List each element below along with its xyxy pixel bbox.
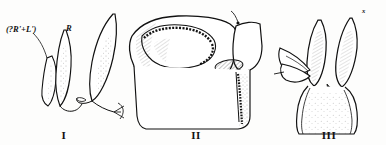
figure-2: x II [126, 0, 266, 145]
figure-3-drawing [272, 0, 386, 145]
root-node-left [77, 98, 86, 102]
figure-2-numeral: II [126, 129, 266, 141]
label-r: R [66, 24, 72, 33]
figure-3: LI LD x III [272, 0, 386, 145]
base-shelf-left [60, 104, 82, 111]
label-rl: (?R'+L') [6, 25, 36, 34]
root-block-outline [134, 66, 250, 129]
figure-1-drawing [0, 0, 128, 145]
figure-3-numeral: III [272, 129, 386, 141]
root-connector-right [92, 101, 114, 112]
figure-2-drawing [126, 0, 266, 145]
figure-1: (?R'+L') R I [0, 0, 128, 145]
symphysis-stipple [304, 92, 350, 134]
root-node-right [114, 103, 124, 119]
illustration-plate: (?R'+L') R I [0, 0, 386, 145]
figure-1-numeral: I [0, 129, 128, 141]
leader-dot-x [236, 21, 239, 24]
leader-line-rl [33, 33, 47, 58]
leader-line-x [231, 11, 238, 22]
root-block-shading [239, 74, 248, 126]
